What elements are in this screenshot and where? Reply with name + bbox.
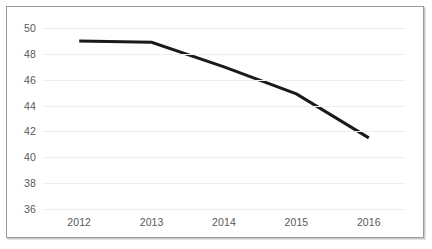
chart-plot-wrapper: 363840424446485020122013201420152016 (7, 7, 423, 237)
plot-area: 363840424446485020122013201420152016 (43, 28, 405, 209)
gridline-48 (43, 54, 405, 55)
x-axis-tick-label: 2012 (67, 216, 91, 228)
x-axis-tick-label: 2015 (285, 216, 309, 228)
gridline-44 (43, 106, 405, 107)
gridline-42 (43, 131, 405, 132)
y-axis-tick-label: 36 (24, 203, 36, 215)
gridline-50 (43, 28, 405, 29)
line-series-svg (43, 28, 405, 209)
gridline-40 (43, 157, 405, 158)
y-axis-tick-label: 38 (24, 177, 36, 189)
gridline-46 (43, 80, 405, 81)
y-axis-tick-label: 48 (24, 48, 36, 60)
chart-frame: 363840424446485020122013201420152016 (6, 6, 424, 238)
gridline-38 (43, 183, 405, 184)
line-series-path (79, 41, 369, 138)
x-axis-tick-label: 2016 (357, 216, 381, 228)
y-axis-tick-label: 44 (24, 100, 36, 112)
y-axis-tick-label: 40 (24, 151, 36, 163)
y-axis-tick-label: 42 (24, 125, 36, 137)
y-axis-tick-label: 46 (24, 74, 36, 86)
x-axis-tick-label: 2014 (212, 216, 236, 228)
gridline-36 (43, 209, 405, 210)
y-axis-tick-label: 50 (24, 22, 36, 34)
x-axis-tick-label: 2013 (140, 216, 164, 228)
